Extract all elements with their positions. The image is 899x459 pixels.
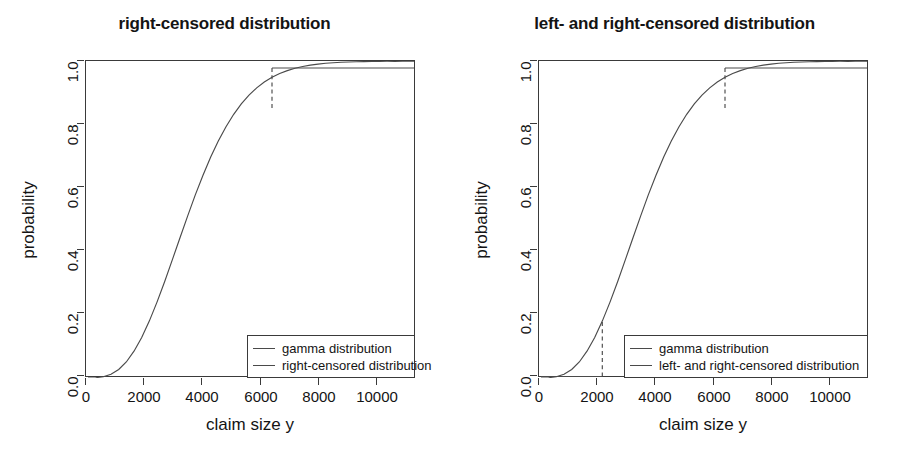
plot-curves [539, 61, 869, 378]
x-tick-mark [771, 378, 772, 385]
legend[interactable]: gamma distribution left- and right-censo… [624, 335, 868, 378]
x-tick-mark [713, 378, 714, 385]
figure-two-panel-censored-distributions: right-censored distribution 0 2000 4000 … [0, 0, 899, 459]
panel-left-and-right-censored: left- and right-censored distribution 0 [450, 0, 899, 459]
legend-item-label: right-censored distribution [282, 357, 432, 374]
x-tick-label: 2000 [580, 388, 613, 405]
legend-item-label: gamma distribution [282, 340, 392, 357]
x-tick-label: 8000 [755, 388, 788, 405]
x-tick-mark [143, 378, 144, 385]
y-tick-label: 0.8 [64, 125, 81, 157]
y-tick-label: 0.2 [64, 314, 81, 346]
x-tick-mark [260, 378, 261, 385]
y-tick-label: 1.0 [517, 62, 534, 94]
legend-item[interactable]: right-censored distribution [253, 357, 408, 374]
x-tick-mark [201, 378, 202, 385]
x-tick-label: 10000 [356, 388, 398, 405]
y-tick-label: 0.4 [64, 251, 81, 283]
x-tick-label: 0 [535, 388, 543, 405]
y-tick-label: 0.6 [64, 188, 81, 220]
curve-gamma-distribution [88, 61, 414, 378]
x-axis-title: claim size y [659, 415, 747, 435]
x-tick-mark [318, 378, 319, 385]
y-axis-title: probability [19, 175, 39, 265]
plot-area [85, 60, 415, 377]
x-tick-mark [85, 378, 86, 385]
x-tick-mark [654, 378, 655, 385]
x-tick-label: 6000 [697, 388, 730, 405]
panel-title: left- and right-censored distribution [450, 14, 899, 34]
x-tick-label: 10000 [809, 388, 851, 405]
x-tick-label: 4000 [638, 388, 671, 405]
legend-item[interactable]: gamma distribution [253, 340, 408, 357]
legend[interactable]: gamma distribution right-censored distri… [247, 335, 415, 378]
x-axis-title: claim size y [206, 415, 294, 435]
legend-item[interactable]: gamma distribution [630, 340, 861, 357]
curve-gamma-distribution [541, 61, 867, 378]
legend-item-label: gamma distribution [659, 340, 769, 357]
x-tick-label: 8000 [302, 388, 335, 405]
y-tick-label: 1.0 [64, 62, 81, 94]
y-tick-label: 0.0 [517, 377, 534, 409]
legend-item-label: left- and right-censored distribution [659, 357, 859, 374]
panel-right-censored: right-censored distribution 0 2000 4000 … [0, 0, 449, 459]
y-tick-label: 0.0 [64, 377, 81, 409]
legend-line-icon [253, 348, 275, 349]
legend-line-icon [630, 348, 652, 349]
y-tick-label: 0.2 [517, 314, 534, 346]
x-tick-label: 2000 [127, 388, 160, 405]
x-tick-mark [538, 378, 539, 385]
x-tick-mark [596, 378, 597, 385]
y-axis-title: probability [472, 175, 492, 265]
legend-line-icon [253, 365, 275, 366]
y-tick-label: 0.6 [517, 188, 534, 220]
x-tick-label: 6000 [244, 388, 277, 405]
x-tick-mark [376, 378, 377, 385]
x-tick-label: 0 [82, 388, 90, 405]
x-tick-mark [829, 378, 830, 385]
plot-area [538, 60, 868, 377]
panel-title: right-censored distribution [0, 14, 449, 34]
y-tick-label: 0.4 [517, 251, 534, 283]
y-tick-label: 0.8 [517, 125, 534, 157]
plot-curves [86, 61, 416, 378]
x-tick-label: 4000 [185, 388, 218, 405]
legend-item[interactable]: left- and right-censored distribution [630, 357, 861, 374]
legend-line-icon [630, 365, 652, 366]
